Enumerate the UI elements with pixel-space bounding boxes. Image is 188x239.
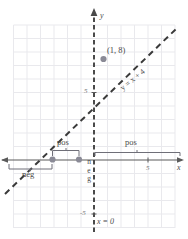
point-right-marker: [76, 156, 82, 162]
point-left-marker: [49, 156, 55, 162]
region-label-neg-vertical: neg: [85, 157, 93, 183]
region-label-neg-left: neg: [22, 170, 34, 179]
coordinate-plane-svg: [0, 0, 188, 239]
region-label-pos-right: pos: [125, 138, 137, 147]
y-tick-label-minus-5: -5: [80, 210, 86, 217]
brace-pos-middle: [53, 148, 80, 156]
x-tick-label-5: 5: [146, 165, 150, 172]
graph-figure: y x 5 -5 5 (1, 8) y = x + 4 x = 0 neg po…: [0, 0, 188, 239]
point-1-8-marker: [100, 56, 106, 62]
x-axis-label: x: [177, 164, 181, 172]
y-tick-label-5: 5: [84, 88, 88, 95]
region-label-pos-middle: pos: [57, 138, 69, 147]
point-label-1-8: (1, 8): [107, 46, 125, 55]
vertical-line-equation-label: x = 0: [97, 218, 114, 226]
y-axis-label: y: [100, 12, 104, 20]
